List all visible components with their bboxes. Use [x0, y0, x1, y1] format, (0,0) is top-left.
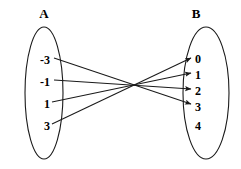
mapping-diagram: A B -3 -1 1 3 0 1 2 3 4 [0, 0, 241, 169]
set-b-ellipse [183, 27, 229, 159]
set-b-label: B [184, 7, 208, 20]
mapping-arrows [52, 58, 191, 124]
set-a-element-3: 3 [28, 120, 50, 132]
set-b-element-0: 0 [195, 53, 201, 65]
set-b-element-2: 2 [195, 85, 201, 97]
set-a-element-1: 1 [28, 98, 50, 110]
set-a-element-neg3: -3 [28, 54, 50, 66]
arrow-3-to-0 [52, 58, 191, 124]
set-b-element-1: 1 [195, 69, 201, 81]
set-a-label: A [32, 7, 56, 20]
set-a-element-neg1: -1 [28, 76, 50, 88]
set-b-element-3: 3 [195, 101, 201, 113]
set-b-element-4: 4 [195, 120, 201, 132]
set-a-ellipse [25, 27, 63, 159]
